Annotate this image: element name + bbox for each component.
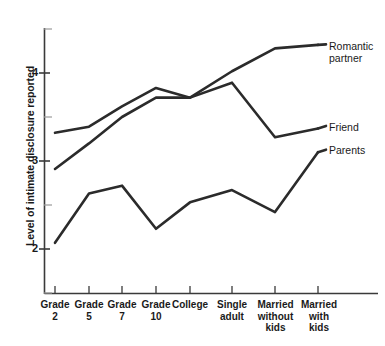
series-label-romantic-partner: Romantic partner [329, 40, 373, 64]
series-label-friend: Friend [329, 121, 359, 133]
chart-canvas [0, 0, 385, 346]
data-series-layer [55, 44, 326, 243]
series-line-romantic-partner [55, 45, 318, 169]
x-category-label-married-with-kids: Married with kids [294, 299, 344, 334]
series-leader-romantic-partner [318, 44, 326, 45]
series-line-friend [55, 83, 318, 138]
series-label-parents: Parents [329, 144, 365, 156]
series-line-parents [55, 152, 318, 243]
series-leader-friend [318, 126, 326, 129]
series-leader-parents [318, 150, 326, 153]
x-category-label-college: College [167, 299, 213, 311]
line-chart: Level of intimate disclosure reported 4 … [0, 0, 385, 346]
